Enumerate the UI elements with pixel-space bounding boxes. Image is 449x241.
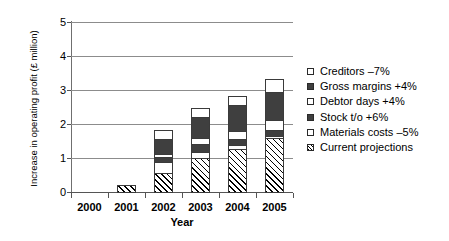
bar-stack[interactable] bbox=[265, 79, 284, 192]
legend-item-label: Gross margins +4% bbox=[320, 80, 417, 93]
legend-item[interactable]: Current projections bbox=[307, 140, 447, 155]
y-axis-tick-label: 1 bbox=[60, 153, 66, 164]
x-axis-tick-label: 2005 bbox=[251, 201, 299, 214]
legend-swatch-icon bbox=[307, 114, 314, 121]
y-axis-tick-label: 2 bbox=[60, 119, 66, 130]
bar-segment[interactable] bbox=[117, 185, 136, 194]
y-axis-tick-label: 4 bbox=[60, 51, 66, 62]
legend-swatch-icon bbox=[307, 98, 314, 105]
y-axis-tick-label: 5 bbox=[60, 17, 66, 28]
bar-segment[interactable] bbox=[154, 139, 173, 154]
legend-item[interactable]: Gross margins +4% bbox=[307, 79, 447, 94]
bar-stack[interactable] bbox=[228, 96, 247, 192]
bar-segment[interactable] bbox=[154, 173, 173, 193]
legend-item-label: Materials costs –5% bbox=[320, 126, 418, 139]
bar-stack[interactable] bbox=[154, 130, 173, 192]
chart-legend: Creditors –7%Gross margins +4%Debtor day… bbox=[307, 64, 447, 155]
legend-swatch-icon bbox=[307, 144, 314, 151]
bar-segment[interactable] bbox=[265, 92, 284, 121]
bar-stack[interactable] bbox=[117, 185, 136, 193]
x-axis-tick-mark bbox=[182, 193, 183, 198]
legend-item-label: Stock t/o +6% bbox=[320, 111, 388, 124]
legend-item-label: Creditors –7% bbox=[320, 65, 390, 78]
x-axis-tick-mark bbox=[293, 193, 294, 198]
bar-segment[interactable] bbox=[191, 117, 210, 138]
legend-item[interactable]: Debtor days +4% bbox=[307, 94, 447, 109]
legend-swatch-icon bbox=[307, 68, 314, 75]
bar-segment[interactable] bbox=[228, 105, 247, 132]
legend-item[interactable]: Creditors –7% bbox=[307, 64, 447, 79]
bar-segment[interactable] bbox=[265, 138, 284, 193]
legend-item-label: Debtor days +4% bbox=[320, 95, 405, 108]
x-axis-tick-mark bbox=[256, 193, 257, 198]
x-axis-tick-mark bbox=[71, 193, 72, 198]
legend-swatch-icon bbox=[307, 83, 314, 90]
stacked-bar-chart: Increase in operating profit (£ million)… bbox=[0, 0, 449, 241]
y-axis-tick-label: 3 bbox=[60, 85, 66, 96]
x-axis-tick-mark bbox=[108, 193, 109, 198]
y-axis-title: Increase in operating profit (£ million) bbox=[28, 23, 39, 195]
y-axis-tick-label: 0 bbox=[60, 187, 66, 198]
bar-segment[interactable] bbox=[191, 158, 210, 193]
legend-swatch-icon bbox=[307, 129, 314, 136]
bar-segment[interactable] bbox=[228, 149, 247, 193]
x-axis-title: Year bbox=[71, 216, 293, 229]
legend-item[interactable]: Stock t/o +6% bbox=[307, 110, 447, 125]
plot-area: 012345 200020012002200320042005 bbox=[71, 21, 293, 193]
bar-stack[interactable] bbox=[191, 108, 210, 192]
x-axis-tick-mark bbox=[145, 193, 146, 198]
legend-item[interactable]: Materials costs –5% bbox=[307, 125, 447, 140]
x-axis-tick-mark bbox=[219, 193, 220, 198]
bar-segment[interactable] bbox=[265, 79, 284, 93]
legend-item-label: Current projections bbox=[320, 141, 413, 154]
bar-series-layer bbox=[71, 21, 293, 193]
